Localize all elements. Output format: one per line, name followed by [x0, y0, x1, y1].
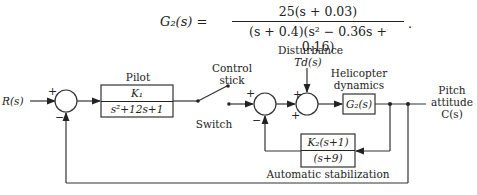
pilot-denominator: s²+12s+1 [101, 102, 173, 116]
summer2-minus-sign: − [252, 115, 261, 126]
pilot-title: Pilot [118, 71, 158, 83]
summer1-plus-sign: + [48, 86, 57, 97]
helicopter-dynamics-title: Helicopter dynamics [328, 67, 390, 91]
switch-label: Switch [192, 118, 236, 130]
helicopter-block-label: G₂(s) [343, 98, 375, 110]
disturbance-symbol: Td(s) [288, 56, 328, 68]
stabilization-numerator: K₂(s+1) [301, 136, 355, 151]
summer2-plus-sign: + [246, 88, 255, 99]
pilot-transfer-function: K₁ s²+12s+1 [101, 87, 173, 116]
output-label: Pitch attitude C(s) [428, 84, 476, 120]
control-stick-label: Control stick [210, 62, 254, 86]
input-label: R(s) [2, 95, 24, 107]
summer3-plus-left: + [291, 110, 300, 121]
block-diagram-lines [0, 0, 477, 195]
summing-junction-2 [254, 93, 276, 115]
summer3-plus-top: + [293, 89, 302, 100]
summing-junction-1 [55, 90, 77, 112]
pilot-numerator: K₁ [101, 87, 173, 102]
stabilization-denominator: (s+9) [301, 151, 355, 165]
stabilization-caption: Automatic stabilization [260, 168, 396, 180]
summer1-minus-sign: − [55, 112, 64, 123]
disturbance-title: Disturbance [278, 44, 338, 56]
stabilization-transfer-function: K₂(s+1) (s+9) [301, 136, 355, 165]
